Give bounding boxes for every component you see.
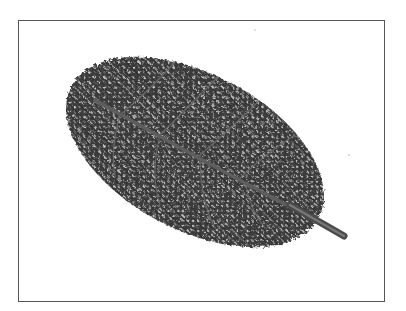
leaf-blade bbox=[35, 17, 355, 286]
leaf-photo bbox=[0, 0, 406, 311]
